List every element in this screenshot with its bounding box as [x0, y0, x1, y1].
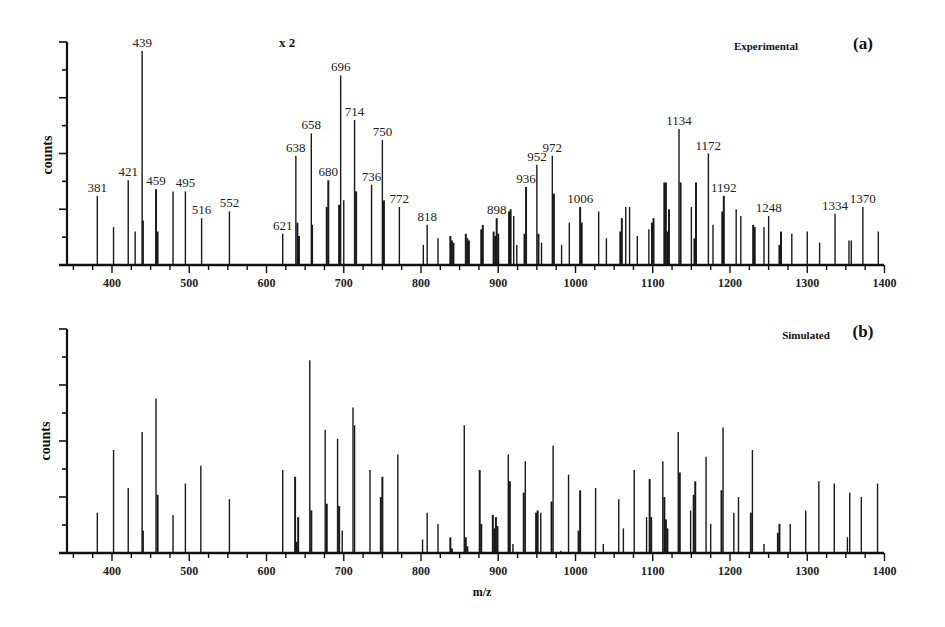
peak-label: 421 — [118, 164, 138, 179]
simulated-panel-letter: (b) — [853, 322, 874, 341]
x-tick-label: 700 — [335, 276, 353, 290]
x-tick-label: 600 — [258, 564, 276, 578]
peak-label: 621 — [273, 218, 293, 233]
x-tick-label: 1100 — [641, 564, 664, 578]
peak-label: 972 — [543, 140, 563, 155]
x-tick-label: 900 — [489, 564, 507, 578]
peak-label: 936 — [516, 171, 536, 186]
peak-label: 736 — [362, 169, 382, 184]
peak-label: 552 — [220, 195, 240, 210]
peak-label: 1006 — [567, 191, 594, 206]
experimental-peak-labels: 3814214394594955165526216386586806967147… — [88, 35, 876, 233]
peak-label: 696 — [331, 59, 351, 74]
simulated-axes: 40050060070080090010001100120013001400 — [59, 329, 897, 578]
x-tick-label: 800 — [412, 564, 430, 578]
peak-label: 680 — [319, 164, 339, 179]
peak-label: 1370 — [850, 191, 876, 206]
peak-label: 898 — [487, 202, 507, 217]
x-tick-label: 1000 — [564, 564, 588, 578]
x-tick-label: 800 — [412, 276, 430, 290]
x-tick-label: 1000 — [564, 276, 588, 290]
panel-experimental: 3814214394594955165526216386586806967147… — [40, 34, 897, 290]
experimental-scale-note: x 2 — [279, 35, 295, 50]
x-tick-label: 400 — [103, 564, 121, 578]
x-tick-label: 400 — [103, 276, 121, 290]
experimental-peaks — [97, 51, 878, 265]
x-tick-label: 500 — [180, 276, 198, 290]
x-tick-label: 1200 — [718, 276, 742, 290]
peak-label: 658 — [302, 117, 322, 132]
x-tick-label: 900 — [489, 276, 507, 290]
x-tick-label: 1300 — [795, 564, 819, 578]
panel-simulated: 40050060070080090010001100120013001400 c… — [38, 322, 897, 578]
x-tick-label: 1400 — [873, 276, 897, 290]
peak-label: 439 — [132, 35, 152, 50]
peak-label: 714 — [345, 104, 365, 119]
peak-label: 1192 — [711, 180, 737, 195]
experimental-axes: 40050060070080090010001100120013001400 — [59, 42, 897, 290]
mass-spectrum-figure: 3814214394594955165526216386586806967147… — [0, 0, 945, 627]
peak-label: 1172 — [696, 138, 722, 153]
peak-label: 772 — [390, 191, 410, 206]
x-tick-label: 600 — [258, 276, 276, 290]
experimental-panel-letter: (a) — [853, 34, 873, 53]
experimental-panel-title: Experimental — [734, 40, 798, 52]
peak-label: 638 — [286, 140, 306, 155]
peak-label: 750 — [373, 124, 393, 139]
x-tick-label: 1100 — [641, 276, 664, 290]
experimental-y-axis-title: counts — [40, 135, 55, 174]
x-tick-label: 500 — [180, 564, 198, 578]
peak-label: 1334 — [822, 198, 849, 213]
peak-label: 1248 — [756, 200, 782, 215]
peak-label: 381 — [88, 180, 108, 195]
peak-label: 459 — [146, 173, 166, 188]
simulated-peaks — [97, 360, 877, 553]
peak-label: 1134 — [666, 113, 692, 128]
x-tick-label: 1200 — [718, 564, 742, 578]
peak-label: 495 — [176, 175, 196, 190]
peak-label: 818 — [417, 209, 437, 224]
simulated-y-axis-title: counts — [38, 421, 53, 460]
x-tick-label: 1300 — [795, 276, 819, 290]
x-tick-label: 700 — [335, 564, 353, 578]
simulated-panel-title: Simulated — [782, 329, 830, 341]
x-axis-title: m/z — [473, 585, 492, 599]
x-tick-label: 1400 — [873, 564, 897, 578]
peak-label: 516 — [192, 202, 212, 217]
